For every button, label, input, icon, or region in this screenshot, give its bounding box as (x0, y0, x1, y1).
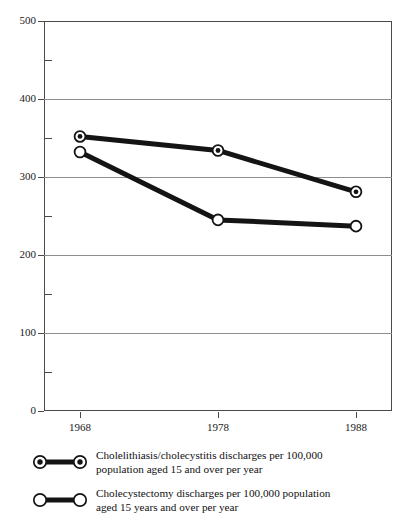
x-axis-label-1968: 1968 (57, 421, 103, 433)
legend-label-line-1: Cholelithiasis/cholecystitis discharges … (96, 449, 396, 463)
y-axis-label-300: 300 (6, 171, 36, 182)
data-point-marker[interactable] (75, 147, 86, 158)
x-tick-1988 (356, 412, 357, 418)
x-axis-label-1988: 1988 (333, 421, 379, 433)
data-point-marker[interactable] (213, 215, 224, 226)
legend-symbol-open-circle (32, 491, 88, 509)
legend-item-cholelithiasis: Cholelithiasis/cholecystitis discharges … (0, 449, 410, 489)
data-point-marker-center (354, 189, 359, 194)
data-point-marker-center (216, 148, 221, 153)
line-chart-figure: 500 400 300 200 100 0 (0, 0, 410, 521)
legend-item-cholecystectomy: Cholecystectomy discharges per 100,000 p… (0, 487, 410, 521)
y-axis-label-400: 400 (6, 93, 36, 104)
x-tick-1978 (218, 412, 219, 418)
data-point-marker[interactable] (351, 221, 362, 232)
x-axis-label-1978: 1978 (195, 421, 241, 433)
legend-label-line-2: population aged 15 and over per year (96, 463, 396, 477)
legend-label-line-2: aged 15 years and over per year (96, 501, 396, 515)
x-tick-1968 (80, 412, 81, 418)
legend-label-line-1: Cholecystectomy discharges per 100,000 p… (96, 487, 396, 501)
data-point-marker-center (78, 134, 83, 139)
plot-area (44, 21, 392, 411)
legend-label-cholelithiasis: Cholelithiasis/cholecystitis discharges … (96, 449, 396, 476)
y-tick-0 (38, 411, 44, 412)
y-axis-label-0: 0 (6, 405, 36, 416)
legend-symbol-bullseye-circle (32, 453, 88, 471)
y-axis-label-200: 200 (6, 249, 36, 260)
legend-label-cholecystectomy: Cholecystectomy discharges per 100,000 p… (96, 487, 396, 514)
y-axis-label-500: 500 (6, 15, 36, 26)
y-axis-label-100: 100 (6, 327, 36, 338)
series-plot (44, 21, 392, 411)
